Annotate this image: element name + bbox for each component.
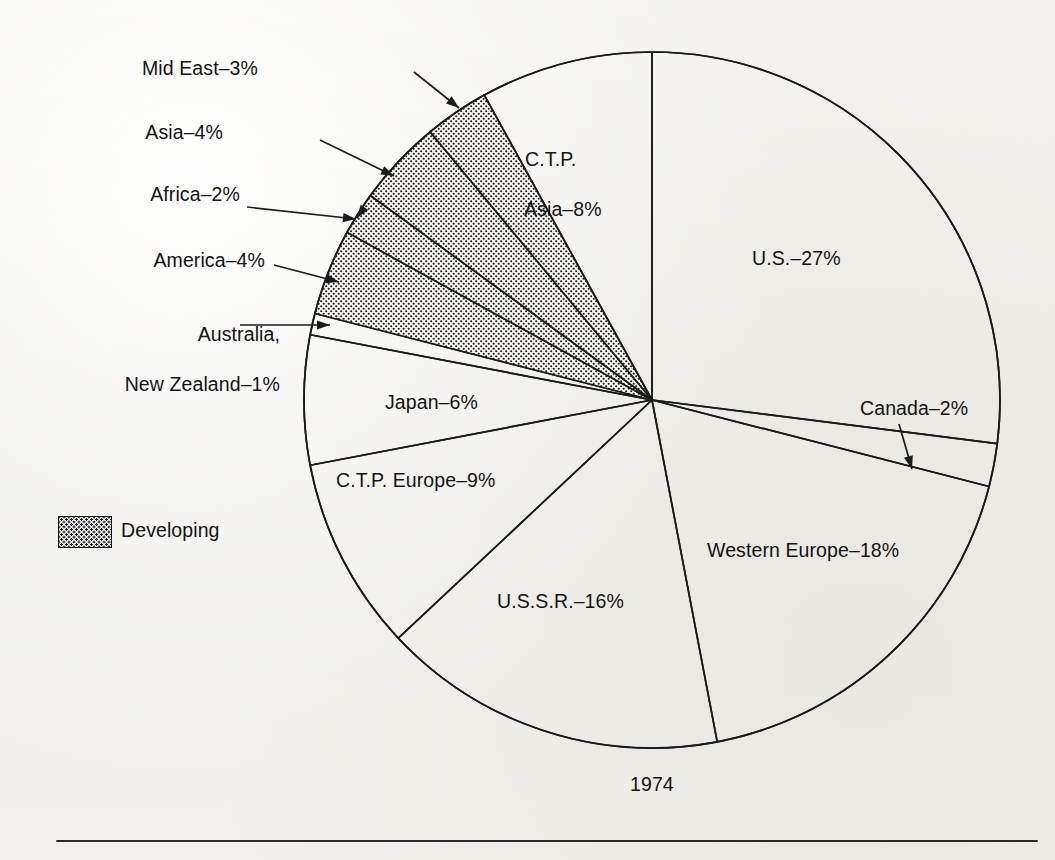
legend-label-developing: Developing <box>121 518 220 543</box>
slice-label-ctp-asia: C.T.P. Asia–8% <box>503 122 643 247</box>
pie-slice <box>398 400 717 748</box>
slice-label-australia-line2: New Zealand–1% <box>125 373 280 395</box>
slice-label-mid-east: Mid East–3% <box>60 56 258 81</box>
leader-africa2 <box>247 207 356 219</box>
slice-label-western-europe: Western Europe–18% <box>707 538 899 563</box>
legend-swatch-developing <box>58 516 112 548</box>
slice-label-africa: Africa–2% <box>60 182 240 207</box>
slice-label-japan: Japan–6% <box>385 390 478 415</box>
year-caption: 1974 <box>630 772 674 797</box>
slice-label-canada: Canada–2% <box>860 396 968 421</box>
slice-label-ctp-asia-line2: Asia–8% <box>524 198 602 220</box>
slice-label-australia-new-zealand: Australia, New Zealand–1% <box>40 297 280 422</box>
slice-label-america: America–4% <box>52 248 265 273</box>
slice-label-asia: Asia–4% <box>60 120 223 145</box>
slice-label-ctp-europe: C.T.P. Europe–9% <box>336 468 496 493</box>
slice-label-ussr: U.S.S.R.–16% <box>497 589 624 614</box>
slice-label-ctp-asia-line1: C.T.P. <box>525 148 576 170</box>
pie-slice <box>652 400 989 742</box>
leader-australia-head <box>317 320 330 329</box>
slice-label-us: U.S.–27% <box>752 246 841 271</box>
figure-stage: Mid East–3% Asia–4% Africa–2% America–4%… <box>0 0 1055 860</box>
leader-canada-head <box>904 455 913 469</box>
leader-mid-east-head <box>446 96 459 108</box>
slice-label-australia-line1: Australia, <box>198 323 280 345</box>
